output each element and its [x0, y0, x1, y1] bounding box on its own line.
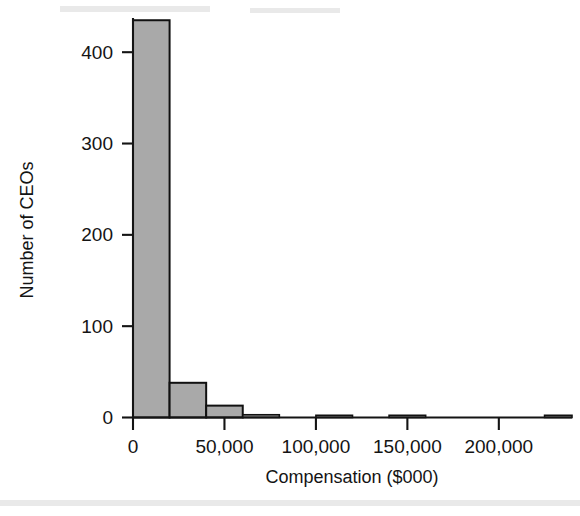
x-axis-ticks: 050,000100,000150,000200,000 [128, 418, 533, 458]
y-tick-label: 300 [81, 133, 113, 154]
y-tick-label: 400 [81, 42, 113, 63]
y-axis-ticks: 0100200300400 [81, 42, 133, 428]
histogram-chart: 0100200300400 050,000100,000150,000200,0… [0, 0, 580, 516]
histogram-bar [133, 20, 170, 417]
x-tick-label: 150,000 [373, 436, 442, 457]
y-tick-label: 200 [81, 224, 113, 245]
y-tick-label: 0 [102, 407, 113, 428]
y-tick-label: 100 [81, 316, 113, 337]
bars-group [133, 20, 572, 417]
x-tick-label: 200,000 [464, 436, 533, 457]
x-tick-label: 0 [128, 436, 139, 457]
x-tick-label: 50,000 [195, 436, 253, 457]
x-tick-label: 100,000 [282, 436, 351, 457]
scan-artifacts [0, 6, 580, 506]
y-axis-title: Number of CEOs [17, 161, 37, 298]
x-axis-title: Compensation ($000) [265, 467, 438, 487]
histogram-bar [206, 406, 243, 418]
histogram-bar [170, 383, 207, 418]
chart-svg: 0100200300400 050,000100,000150,000200,0… [0, 0, 580, 516]
